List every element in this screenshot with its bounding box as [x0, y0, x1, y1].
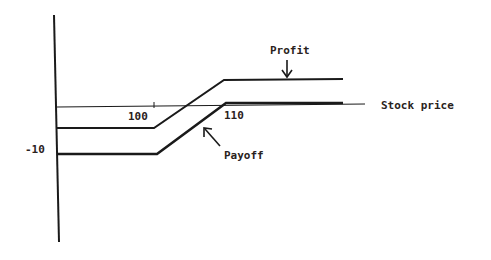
x-tick-label-100: 100	[128, 110, 148, 123]
profit-arrow-icon	[282, 60, 292, 77]
payoff-diagram: 100 110 -10 Stock price Profit Payoff	[0, 0, 491, 260]
x-tick-label-110: 110	[224, 109, 244, 122]
x-axis-label: Stock price	[381, 99, 454, 112]
profit-label: Profit	[270, 44, 310, 57]
payoff-label: Payoff	[224, 149, 264, 162]
payoff-arrow-icon	[204, 128, 220, 146]
y-tick-label-neg10: -10	[25, 143, 45, 156]
x-axis	[57, 104, 365, 107]
